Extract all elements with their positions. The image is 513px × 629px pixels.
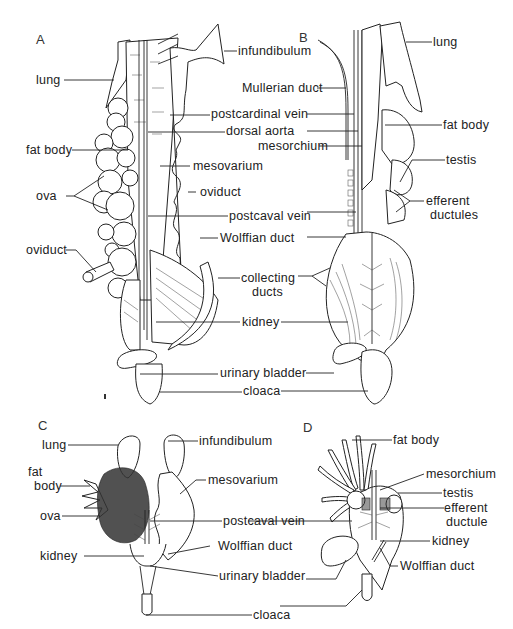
label-d-efferent-ductule-line1: efferent	[444, 502, 488, 515]
label-a-postcaval-vein: postcaval vein	[229, 210, 311, 223]
label-c-wolffian-duct: Wolffian duct	[218, 540, 292, 553]
label-c-ova: ova	[40, 510, 61, 523]
label-b-mesorchium: mesorchium	[258, 140, 328, 153]
label-c-postcaval-vein: postcaval vein	[223, 515, 305, 528]
label-c-fat-body-line1: fat	[28, 466, 43, 479]
stray-mark	[104, 394, 106, 399]
label-a-oviduct-left: oviduct	[26, 244, 67, 257]
panel-b-drawing	[318, 22, 422, 404]
label-d-efferent-ductule-line2: ductule	[446, 516, 488, 529]
label-a-mesovarium: mesovarium	[193, 160, 263, 173]
label-a-fat-body: fat body	[26, 144, 72, 157]
label-a-lung: lung	[36, 74, 60, 87]
label-b-efferent-ductules-line2: ductules	[430, 209, 478, 222]
label-b-mullerian-duct: Mullerian duct	[242, 82, 323, 95]
label-a-wolffian-duct: Wolffian duct	[220, 232, 294, 245]
label-d-testis: testis	[443, 487, 473, 500]
label-d-fat-body: fat body	[393, 434, 439, 447]
label-a-dorsal-aorta: dorsal aorta	[226, 125, 294, 138]
panel-letter-d: D	[303, 420, 312, 435]
label-c-fat-body-line2: body	[34, 480, 62, 493]
label-b-testis: testis	[446, 154, 476, 167]
urogenital-figure: A infundibulum lung postcardinal vein do…	[0, 0, 513, 629]
label-a-ova: ova	[36, 190, 57, 203]
label-a-oviduct-right: oviduct	[200, 186, 241, 199]
label-d-wolffian-duct: Wolffian duct	[400, 560, 474, 573]
label-a-collecting-ducts-line1: collecting	[241, 272, 295, 285]
label-b-fat-body: fat body	[443, 119, 489, 132]
label-c-mesovarium: mesovarium	[208, 474, 278, 487]
label-c-infundibulum: infundibulum	[199, 435, 272, 448]
label-a-urinary-bladder: urinary bladder	[220, 367, 306, 380]
label-c-lung: lung	[42, 439, 66, 452]
label-a-postcardinal-vein: postcardinal vein	[211, 108, 308, 121]
label-a-cloaca: cloaca	[243, 385, 280, 398]
panel-d-drawing	[318, 436, 403, 601]
panel-letter-a: A	[36, 32, 45, 47]
label-d-kidney: kidney	[432, 535, 469, 548]
label-a-collecting-ducts-line2: ducts	[252, 286, 283, 299]
label-b-efferent-ductules-line1: efferent	[426, 195, 470, 208]
panel-c-drawing	[82, 435, 194, 615]
label-d-mesorchium: mesorchium	[426, 468, 496, 481]
panel-letter-b: B	[299, 30, 308, 45]
label-a-infundibulum: infundibulum	[238, 45, 311, 58]
label-a-kidney: kidney	[242, 316, 279, 329]
panel-letter-c: C	[38, 418, 47, 433]
label-b-lung: lung	[433, 36, 457, 49]
label-c-urinary-bladder: urinary bladder	[219, 570, 305, 583]
label-c-cloaca: cloaca	[253, 609, 290, 622]
panel-a-drawing	[83, 24, 224, 404]
label-c-kidney: kidney	[40, 550, 77, 563]
